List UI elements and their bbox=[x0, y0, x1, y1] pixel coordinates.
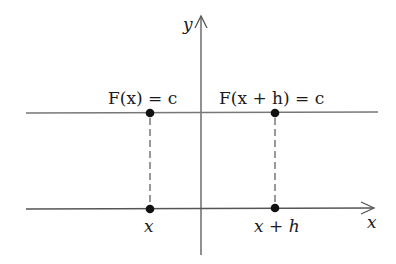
label-fx-equals-c: F(x) = c bbox=[108, 88, 177, 108]
point-fxh bbox=[271, 109, 280, 118]
point-fx bbox=[146, 109, 155, 118]
point-xh bbox=[271, 204, 280, 213]
diagram-canvas: y x F(x) = c F(x + h) = c x x + h bbox=[0, 0, 396, 264]
label-x: x bbox=[144, 216, 154, 236]
line-y-equals-c bbox=[26, 112, 378, 113]
label-x-plus-h: x + h bbox=[254, 216, 300, 236]
point-x bbox=[146, 205, 155, 214]
x-axis-label: x bbox=[367, 212, 377, 232]
label-fxh-equals-c: F(x + h) = c bbox=[219, 88, 324, 108]
y-axis-label: y bbox=[182, 14, 193, 34]
x-axis bbox=[26, 208, 373, 209]
